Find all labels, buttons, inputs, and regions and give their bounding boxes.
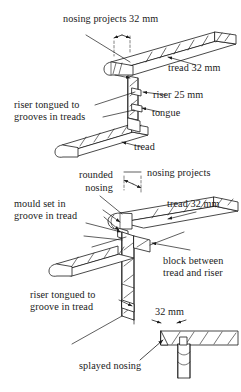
label-riser-tongued-to-grooves-line2: grooves in treads [14, 111, 85, 123]
label-mould-set-in-line1: mould set in [14, 198, 66, 210]
label-32mm-dimension: 32 mm [155, 306, 184, 318]
figure-page: nosing projects 32 mm tread 32 mm riser … [0, 0, 241, 392]
label-tread-32mm-upper: tread 32 mm [168, 62, 221, 74]
stair-nosing-drawing [0, 0, 241, 392]
splayed-dimension [152, 320, 186, 323]
splayed-nosing-assembly [140, 320, 238, 378]
label-tread-32mm-lower: tread 32 mm [167, 198, 220, 210]
nosing-projection-dimension [114, 35, 130, 56]
label-mould-set-in-line2: groove in tread [14, 210, 77, 222]
label-rounded-nosing-line2: nosing [53, 182, 113, 194]
label-nosing-projects-32mm-upper: nosing projects 32 mm [63, 13, 158, 25]
label-tread-upper: tread [134, 141, 155, 153]
label-riser-tongued-groove-line1: riser tongued to [30, 289, 96, 301]
label-nosing-projects-lower: nosing projects [147, 167, 210, 179]
label-riser-tongued-to-grooves-line1: riser tongued to [14, 99, 80, 111]
upper-tread-assembly [55, 32, 236, 157]
label-riser-25mm: riser 25 mm [153, 89, 203, 101]
label-rounded-nosing-line1: rounded [53, 169, 113, 181]
label-riser-tongued-groove-line2: groove in tread [30, 301, 93, 313]
label-block-between-line2: tread and riser [163, 267, 223, 279]
label-splayed-nosing: splayed nosing [79, 360, 141, 372]
label-block-between-line1: block between [163, 255, 223, 267]
label-tongue: tongue [152, 107, 180, 119]
lower-nosing-dimension [124, 172, 141, 194]
